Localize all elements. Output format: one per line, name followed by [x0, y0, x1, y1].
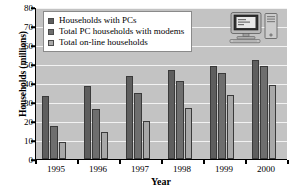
- bar: [210, 66, 218, 159]
- legend-swatch-icon: [48, 18, 54, 24]
- x-axis-tick-label: 1996: [78, 164, 118, 174]
- bar: [260, 66, 268, 159]
- bar: [84, 86, 92, 159]
- bar: [59, 142, 67, 159]
- legend-item: Total PC households with modems: [48, 26, 184, 37]
- y-axis-tick-label: 80: [7, 3, 33, 13]
- legend-swatch-icon: [48, 29, 54, 35]
- legend-label: Total PC households with modems: [59, 26, 184, 37]
- bar: [269, 85, 277, 159]
- y-axis-tick-mark: [31, 26, 35, 28]
- gridline: [36, 141, 287, 142]
- legend-swatch-icon: [48, 40, 54, 46]
- y-axis-tick-mark: [31, 102, 35, 104]
- bar: [252, 60, 260, 159]
- x-axis-tick-label: 1998: [162, 164, 202, 174]
- bar-chart: Households (millions) 01020304050607080 …: [0, 0, 295, 191]
- y-axis-tick-mark: [31, 140, 35, 142]
- y-axis-tick-label: 20: [7, 117, 33, 127]
- y-axis-tick-mark: [31, 83, 35, 85]
- desktop-computer-illustration-icon: [228, 11, 280, 44]
- x-axis-tick-label: 1997: [120, 164, 160, 174]
- x-axis-tick-label: 2000: [246, 164, 286, 174]
- bar: [50, 126, 58, 159]
- bar: [101, 132, 109, 159]
- y-axis-tick-mark: [31, 7, 35, 9]
- gridline: [36, 65, 287, 66]
- gridline: [36, 84, 287, 85]
- y-axis-tick-label: 10: [7, 136, 33, 146]
- x-axis-tick-mark: [287, 160, 289, 164]
- y-axis-tick-label: 50: [7, 60, 33, 70]
- bar: [218, 73, 226, 159]
- bar: [168, 70, 176, 159]
- x-axis-tick-mark: [35, 160, 37, 164]
- y-axis-tick-label: 30: [7, 98, 33, 108]
- bar: [143, 121, 151, 159]
- y-axis-tick-label: 0: [7, 155, 33, 165]
- x-axis-title: Year: [35, 176, 287, 187]
- bar: [176, 81, 184, 159]
- bar: [42, 96, 50, 159]
- y-axis-tick-label: 40: [7, 79, 33, 89]
- gridline: [36, 8, 287, 9]
- gridline: [36, 122, 287, 123]
- y-axis-tick-mark: [31, 64, 35, 66]
- legend-label: Households with PCs: [59, 15, 137, 26]
- bar: [227, 95, 235, 159]
- y-axis-tick-mark: [31, 121, 35, 123]
- gridline: [36, 103, 287, 104]
- y-axis-tick-label: 70: [7, 22, 33, 32]
- legend-item: Total on-line households: [48, 37, 184, 48]
- chart-legend: Households with PCsTotal PC households w…: [43, 11, 192, 52]
- x-axis-tick-label: 1999: [204, 164, 244, 174]
- bar: [126, 76, 134, 159]
- y-axis-tick-label: 60: [7, 41, 33, 51]
- legend-item: Households with PCs: [48, 15, 184, 26]
- x-axis-tick-label: 1995: [36, 164, 76, 174]
- y-axis-tick-mark: [31, 45, 35, 47]
- legend-label: Total on-line households: [59, 37, 148, 48]
- bar: [134, 93, 142, 160]
- bar: [185, 108, 193, 159]
- bar: [92, 109, 100, 159]
